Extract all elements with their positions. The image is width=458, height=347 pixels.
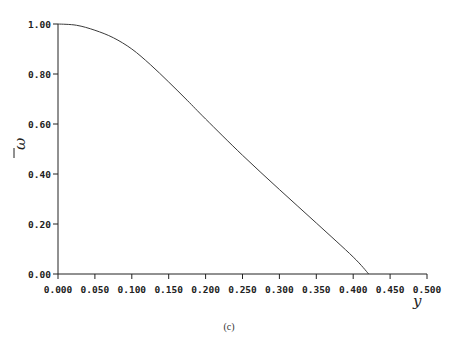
y-tick-label: 0.20 [28, 219, 51, 230]
y-tick-label: 0.40 [28, 169, 51, 180]
y-tick-label: 0.00 [28, 269, 51, 280]
x-tick-label: 0.450 [376, 284, 405, 295]
x-tick-label: 0.400 [339, 284, 368, 295]
x-tick-label: 0.000 [44, 284, 73, 295]
x-tick-label: 0.250 [228, 284, 257, 295]
x-tick-label: 0.200 [191, 284, 220, 295]
x-axis-label: y [412, 292, 422, 310]
y-tick-label: 0.60 [28, 119, 51, 130]
x-tick-label: 0.150 [154, 284, 183, 295]
x-tick-label: 0.300 [265, 284, 294, 295]
figure-caption: (c) [0, 321, 458, 332]
y-tick-label: 0.80 [28, 69, 51, 80]
y-tick-label: 1.00 [28, 19, 51, 30]
series-line [58, 24, 369, 274]
x-tick-label: 0.050 [81, 284, 110, 295]
x-tick-label: 0.350 [302, 284, 331, 295]
y-axis-label: ω [11, 138, 29, 158]
line-chart: 0.000.200.400.600.801.00 0.0000.0500.100… [0, 0, 458, 347]
data-series [58, 24, 369, 274]
x-tick-label: 0.100 [117, 284, 146, 295]
x-axis: 0.0000.0500.1000.1500.2000.2500.3000.350… [44, 274, 442, 295]
y-axis: 0.000.200.400.600.801.00 [28, 19, 58, 280]
